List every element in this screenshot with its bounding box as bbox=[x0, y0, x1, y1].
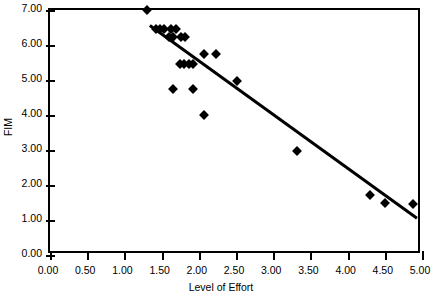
data-point bbox=[199, 110, 209, 120]
x-axis-tick bbox=[199, 251, 201, 260]
x-axis-tick bbox=[50, 251, 52, 260]
data-point bbox=[142, 5, 152, 15]
data-point bbox=[211, 49, 221, 59]
data-point bbox=[168, 84, 178, 94]
x-axis-tick-label: 5.00 bbox=[397, 265, 442, 276]
x-axis-tick bbox=[273, 251, 275, 260]
y-axis-tick-label: 2.00 bbox=[2, 178, 42, 189]
y-axis-tick bbox=[46, 220, 55, 222]
y-axis-tick bbox=[46, 115, 55, 117]
y-axis-tick bbox=[46, 10, 55, 12]
y-axis-tick bbox=[46, 150, 55, 152]
x-axis-tick bbox=[87, 251, 89, 260]
x-axis-tick bbox=[310, 251, 312, 260]
y-axis-tick-label: 7.00 bbox=[2, 3, 42, 14]
data-point bbox=[188, 84, 198, 94]
y-axis-tick-label: 0.00 bbox=[2, 248, 42, 259]
plot-area bbox=[48, 8, 420, 253]
data-points-layer bbox=[50, 10, 418, 251]
data-point bbox=[292, 146, 302, 156]
y-axis-tick-label: 5.00 bbox=[2, 73, 42, 84]
scatter-chart-figure: 0.001.002.003.004.005.006.007.00 0.000.5… bbox=[0, 0, 442, 305]
data-point bbox=[365, 190, 375, 200]
x-axis-title: Level of Effort bbox=[0, 281, 442, 293]
x-axis-tick bbox=[162, 251, 164, 260]
data-point bbox=[380, 198, 390, 208]
x-axis-tick bbox=[385, 251, 387, 260]
x-axis-tick bbox=[236, 251, 238, 260]
x-axis-tick bbox=[124, 251, 126, 260]
data-point bbox=[199, 49, 209, 59]
data-point bbox=[232, 76, 242, 86]
y-axis-tick-label: 6.00 bbox=[2, 38, 42, 49]
data-point bbox=[408, 199, 418, 209]
y-axis-title: FIM bbox=[2, 107, 14, 147]
y-axis-tick-label: 1.00 bbox=[2, 213, 42, 224]
y-axis-tick bbox=[46, 45, 55, 47]
y-axis-tick bbox=[46, 185, 55, 187]
x-axis-tick bbox=[348, 251, 350, 260]
y-axis-tick bbox=[46, 80, 55, 82]
x-axis-tick bbox=[422, 251, 424, 260]
